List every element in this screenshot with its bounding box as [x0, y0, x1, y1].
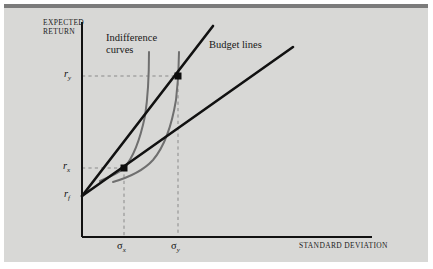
indifference-curves	[100, 52, 179, 182]
x-tick-label-sigma-y: σy	[171, 240, 180, 254]
budget-line-shallow	[82, 47, 293, 196]
y-tick-sub-rf: f	[68, 194, 70, 202]
x-tick-sub-sigma-y: y	[177, 246, 180, 254]
indifference-curve-upper	[113, 52, 179, 182]
tangency-marker-x	[121, 165, 128, 172]
tangency-marker-y	[175, 73, 182, 80]
y-tick-sub-rx: x	[67, 166, 70, 174]
y-tick-label-ry: ry	[64, 68, 71, 82]
figure-container: EXPECTED RETURN STANDARD DEVIATION Indif…	[0, 0, 433, 269]
y-tick-label-rx: rx	[63, 160, 70, 174]
y-axis-caption: EXPECTED RETURN	[43, 19, 84, 36]
x-tick-sub-sigma-x: x	[123, 246, 126, 254]
y-tick-label-rf: rf	[64, 188, 70, 202]
dashed-guides	[82, 76, 178, 237]
indifference-curves-label: Indifference curves	[106, 32, 157, 55]
budget-lines-label: Budget lines	[209, 39, 262, 51]
x-tick-label-sigma-x: σx	[117, 240, 126, 254]
tangency-markers	[121, 73, 182, 172]
x-axis-caption: STANDARD DEVIATION	[299, 242, 388, 251]
y-tick-sub-ry: y	[68, 74, 71, 82]
